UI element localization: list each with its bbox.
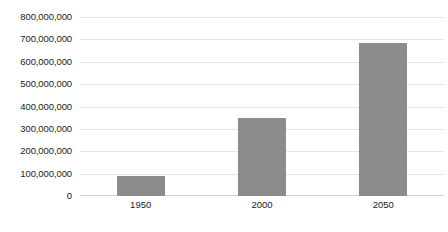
x-axis-tick-label: 2000 xyxy=(201,200,322,210)
x-axis: 1950 2000 2050 xyxy=(80,200,444,210)
y-axis-tick-label: 700,000,000 xyxy=(20,35,72,45)
y-axis-tick-label: 100,000,000 xyxy=(20,169,72,179)
y-axis-tick-label: 800,000,000 xyxy=(20,12,72,22)
y-axis-tick-label: 400,000,000 xyxy=(20,102,72,112)
bar-slot xyxy=(201,17,322,196)
plot-area xyxy=(80,17,444,196)
y-axis-tick-label: 200,000,000 xyxy=(20,147,72,157)
y-axis-tick-label: 600,000,000 xyxy=(20,57,72,67)
y-axis: 800,000,000 700,000,000 600,000,000 500,… xyxy=(0,0,78,196)
y-axis-tick-label: 500,000,000 xyxy=(20,79,72,89)
bar-2000[interactable] xyxy=(238,118,286,196)
bar-2050[interactable] xyxy=(359,43,407,196)
bar-1950[interactable] xyxy=(117,176,165,196)
x-axis-tick-label: 2050 xyxy=(323,200,444,210)
bar-slot xyxy=(80,17,201,196)
clipped-caption-remnant xyxy=(80,226,410,232)
bar-slot xyxy=(323,17,444,196)
y-axis-tick-label: 300,000,000 xyxy=(20,124,72,134)
y-axis-tick-label: 0 xyxy=(67,191,72,201)
bar-chart: 800,000,000 700,000,000 600,000,000 500,… xyxy=(0,0,448,232)
x-axis-tick-label: 1950 xyxy=(80,200,201,210)
bars-layer xyxy=(80,17,444,196)
